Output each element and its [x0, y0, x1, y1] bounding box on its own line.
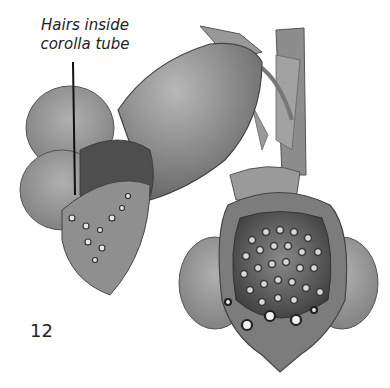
- annotation-line-1: Hairs inside: [30, 16, 140, 35]
- illustration-canvas: Hairs inside corolla tube 12: [0, 0, 390, 388]
- annotation-line-2: corolla tube: [30, 35, 140, 54]
- figure-number: 12: [30, 320, 53, 341]
- front-flower: [179, 167, 378, 372]
- foxglove-illustration: [0, 0, 390, 388]
- annotation-label: Hairs inside corolla tube: [30, 16, 140, 54]
